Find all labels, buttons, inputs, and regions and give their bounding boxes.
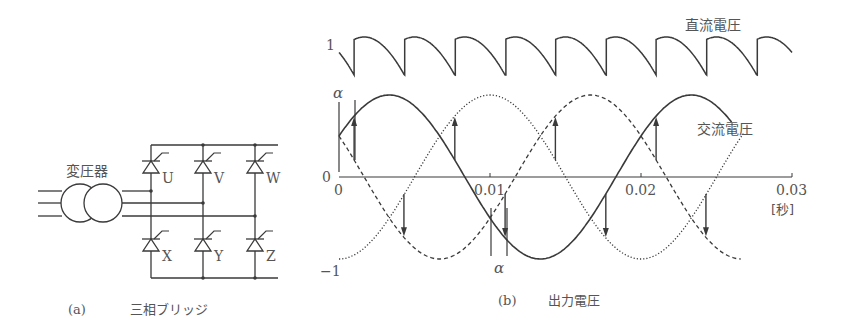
junction-dot [201, 276, 205, 280]
alpha-label-top: α [333, 84, 343, 102]
x-unit-label: [秒] [771, 202, 794, 217]
caption-a: 三相ブリッジ [130, 302, 208, 317]
y-label-minus-one: −1 [320, 263, 341, 279]
firing-arrow-down [603, 194, 609, 237]
dc-voltage-label: 直流電圧 [685, 17, 741, 33]
x-tick-label: 0 [334, 182, 343, 198]
thyristor-label-z: Z [266, 248, 276, 264]
thyristor-label-v: V [213, 170, 225, 186]
firing-arrow-up [351, 117, 357, 160]
junction-dot [149, 189, 153, 193]
thyristor-label-u: U [162, 170, 174, 186]
thyristor-label-w: W [266, 170, 281, 186]
junction-dot [201, 201, 205, 205]
transformer-secondary-coil [84, 184, 122, 222]
x-tick-label: 0.03 [776, 182, 807, 198]
dc-voltage-curve [339, 37, 792, 75]
alpha-label-bottom: α [494, 259, 504, 277]
figure: 変圧器 UXVYWZ (a) 三相ブリッジ 00.010.020.03 1 0 … [0, 0, 843, 331]
firing-arrow-up [552, 117, 558, 160]
junction-dot [201, 143, 205, 147]
junction-dot [253, 214, 257, 218]
y-label-zero: 0 [322, 169, 331, 185]
caption-a-tag: (a) [68, 302, 86, 317]
firing-arrow-down [703, 194, 709, 236]
thyristor-label-x: X [162, 248, 172, 264]
x-tick-label: 0.02 [625, 182, 656, 198]
transformer-label: 変圧器 [66, 163, 108, 179]
y-label-one: 1 [326, 37, 335, 53]
firing-arrow-down [401, 194, 407, 236]
output-voltage-chart: 00.010.020.03 [334, 37, 807, 259]
firing-arrow-up [653, 117, 659, 160]
caption-b-tag: (b) [498, 293, 516, 308]
firing-arrow-up [452, 117, 458, 160]
x-tick-label: 0.01 [474, 182, 505, 198]
caption-b: 出力電圧 [548, 293, 600, 308]
thyristor-label-y: Y [213, 248, 224, 264]
junction-dot [253, 143, 257, 147]
ac-voltage-label: 交流電圧 [697, 121, 753, 137]
junction-dot [253, 276, 257, 280]
